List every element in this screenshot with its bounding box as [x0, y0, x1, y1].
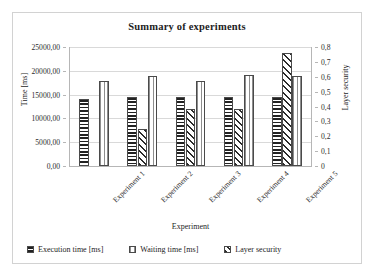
- bar[interactable]: [138, 129, 148, 166]
- chart-legend: Execution time [ms]Waiting time [ms]Laye…: [27, 241, 347, 257]
- bar[interactable]: [224, 97, 234, 166]
- bar[interactable]: [79, 99, 89, 166]
- bar[interactable]: [127, 97, 137, 166]
- y-axis-left-tick-label: 15000,00: [32, 90, 60, 99]
- y-axis-left-tick-mark: [63, 47, 66, 48]
- y-axis-left-tick-label: 25000,00: [32, 43, 60, 52]
- x-axis-category-label: Experiment 1: [111, 169, 146, 204]
- y-axis-right-tick-mark: [315, 77, 318, 78]
- bar[interactable]: [176, 97, 186, 166]
- y-axis-right-tick-label: 0,1: [321, 147, 331, 156]
- bar[interactable]: [196, 81, 206, 166]
- y-axis-left-tick-mark: [63, 166, 66, 167]
- x-axis-title: Experiment: [69, 222, 312, 231]
- legend-label: Waiting time [ms]: [140, 245, 198, 254]
- y-axis-right-tick-label: 0: [321, 162, 325, 171]
- y-axis-right-tick-mark: [315, 107, 318, 108]
- x-axis-category-label: Experiment 4: [256, 169, 291, 204]
- plot-area: [69, 47, 312, 167]
- x-axis-category-label: Experiment 2: [159, 169, 194, 204]
- y-axis-right-tick-mark: [315, 92, 318, 93]
- legend-label: Layer security: [235, 245, 281, 254]
- y-axis-left-tick-label: 10000,00: [32, 114, 60, 123]
- bar-group: [215, 47, 263, 166]
- bar[interactable]: [99, 81, 109, 166]
- y-axis-right-tick-label: 0,4: [321, 102, 331, 111]
- bar[interactable]: [148, 76, 158, 166]
- y-axis-left-tick-mark: [63, 142, 66, 143]
- bar[interactable]: [186, 109, 196, 166]
- y-axis-right-tick-mark: [315, 47, 318, 48]
- bar-group: [70, 47, 118, 166]
- y-axis-right-ticks: 00,10,20,30,40,50,60,70,8: [315, 47, 341, 167]
- y-axis-right-title: Layer security: [341, 52, 350, 124]
- legend-entry[interactable]: Waiting time [ms]: [129, 245, 198, 254]
- y-axis-right-tick-label: 0,2: [321, 132, 331, 141]
- y-axis-right-tick-mark: [315, 151, 318, 152]
- bar[interactable]: [272, 97, 282, 166]
- x-axis-category-label: Experiment 5: [304, 169, 339, 204]
- bar-group: [118, 47, 166, 166]
- y-axis-right-tick-mark: [315, 136, 318, 137]
- legend-entry[interactable]: Execution time [ms]: [27, 245, 103, 254]
- y-axis-left-tick-label: 20000,00: [32, 66, 60, 75]
- legend-swatch-icon: [27, 246, 34, 253]
- legend-label: Execution time [ms]: [38, 245, 103, 254]
- y-axis-right-tick-label: 0,5: [321, 87, 331, 96]
- legend-swatch-icon: [224, 246, 231, 253]
- bar[interactable]: [282, 53, 292, 166]
- y-axis-left-tick-mark: [63, 95, 66, 96]
- x-axis-category-label: Experiment 3: [207, 169, 242, 204]
- y-axis-right-tick-label: 0,3: [321, 117, 331, 126]
- chart-frame: Summary of experiments Time [ms] Layer s…: [12, 12, 362, 264]
- bar[interactable]: [292, 76, 302, 166]
- bar[interactable]: [234, 109, 244, 166]
- chart-title: Summary of experiments: [13, 21, 361, 32]
- y-axis-left-tick-mark: [63, 118, 66, 119]
- bar[interactable]: [244, 75, 254, 166]
- bar-group: [166, 47, 214, 166]
- y-axis-right-tick-label: 0,7: [321, 57, 331, 66]
- y-axis-right-tick-mark: [315, 166, 318, 167]
- y-axis-right-tick-mark: [315, 121, 318, 122]
- legend-entry[interactable]: Layer security: [224, 245, 281, 254]
- y-axis-left-tick-label: 0,00: [47, 162, 60, 171]
- y-axis-left-tick-label: 5000,00: [35, 138, 60, 147]
- y-axis-right-tick-mark: [315, 62, 318, 63]
- y-axis-right-tick-label: 0,8: [321, 43, 331, 52]
- y-axis-left-ticks: 0,005000,0010000,0015000,0020000,0025000…: [13, 47, 66, 167]
- x-axis-category-labels: Experiment 1Experiment 2Experiment 3Expe…: [69, 169, 312, 221]
- bar-group: [263, 47, 311, 166]
- legend-swatch-icon: [129, 246, 136, 253]
- y-axis-right-tick-label: 0,6: [321, 72, 331, 81]
- y-axis-left-tick-mark: [63, 71, 66, 72]
